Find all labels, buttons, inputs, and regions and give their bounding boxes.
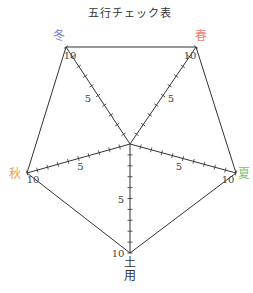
tick-label-10: 10: [27, 174, 40, 185]
tick-mark: [148, 113, 152, 116]
tick-label-10: 10: [184, 50, 197, 61]
tick-mark: [141, 123, 145, 126]
axis-label-summer: 夏: [238, 167, 250, 181]
tick-mark: [83, 75, 87, 78]
tick-mark: [168, 84, 172, 87]
axis-label-doyo-bottom: 用: [124, 269, 136, 283]
tick-label-10: 10: [112, 248, 125, 259]
outer-pentagon: [27, 47, 236, 253]
tick-mark: [135, 133, 139, 136]
tick-mark: [109, 114, 113, 117]
axis-label-winter: 冬: [53, 28, 65, 43]
axis-label-doyo-top: 土: [124, 256, 136, 270]
tick-mark: [161, 94, 165, 97]
axis-label-spring: 春: [195, 29, 207, 43]
tick-mark: [181, 65, 185, 68]
radar-chart: 510510510510510 春夏土用秋冬: [0, 0, 253, 293]
tick-mark: [77, 65, 81, 68]
axes: [27, 47, 236, 253]
tick-label-10: 10: [222, 174, 235, 185]
tick-mark: [154, 104, 158, 107]
tick-mark: [174, 75, 178, 78]
axis-label-autumn: 秋: [9, 167, 21, 181]
tick-mark: [115, 123, 119, 126]
tick-label-5: 5: [168, 93, 174, 104]
tick-mark: [102, 104, 106, 107]
tick-label-10: 10: [64, 50, 77, 61]
tick-label-5: 5: [85, 93, 91, 104]
tick-label-5: 5: [176, 161, 182, 172]
tick-label-5: 5: [77, 161, 83, 172]
tick-label-5: 5: [118, 194, 124, 205]
pentagon-outline: [27, 47, 236, 253]
tick-mark: [96, 94, 100, 97]
tick-mark: [122, 133, 126, 136]
tick-mark: [90, 84, 94, 87]
